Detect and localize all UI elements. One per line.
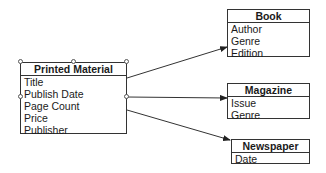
attribute: Genre (228, 35, 309, 47)
attribute: Issue (228, 97, 309, 109)
class-title: Magazine (228, 84, 309, 97)
class-printed-material[interactable]: Printed Material Title Publish Date Page… (20, 62, 127, 134)
selection-handle[interactable] (18, 94, 23, 99)
attribute: Page Count (21, 100, 126, 112)
selection-handle[interactable] (124, 94, 129, 99)
arrow-to-book (127, 47, 227, 78)
attribute: Author (228, 23, 309, 35)
attribute: Publisher (21, 124, 126, 136)
class-book[interactable]: Book Author Genre Edition (227, 9, 310, 57)
attribute: Date (232, 153, 309, 165)
class-magazine[interactable]: Magazine Issue Genre (227, 83, 310, 119)
attribute: Price (21, 112, 126, 124)
selection-handle[interactable] (124, 59, 129, 64)
arrow-to-magazine (127, 97, 227, 98)
class-title: Printed Material (21, 63, 126, 76)
attribute: Title (21, 76, 126, 88)
attribute: Publish Date (21, 88, 126, 100)
attribute: Edition (228, 47, 309, 59)
class-title: Newspaper (232, 140, 309, 153)
arrow-to-newspaper (127, 110, 230, 140)
attribute: Genre (228, 109, 309, 121)
selection-handle[interactable] (18, 59, 23, 64)
class-newspaper[interactable]: Newspaper Date (231, 139, 310, 164)
class-title: Book (228, 10, 309, 23)
selection-handle[interactable] (71, 59, 76, 64)
